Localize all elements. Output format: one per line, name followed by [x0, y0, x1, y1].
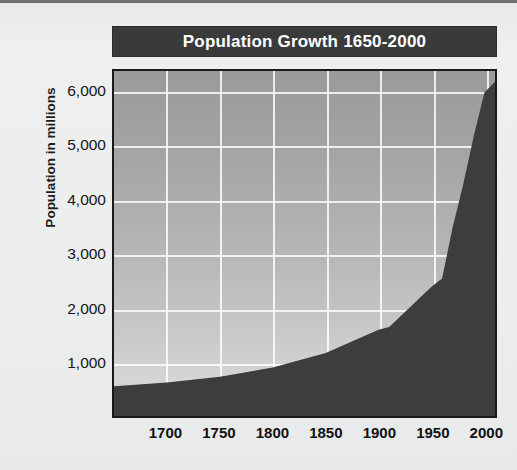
chart-title-bar: Population Growth 1650-2000: [112, 26, 497, 57]
y-tick-label: 6,000: [10, 82, 106, 100]
x-tick-label: 1850: [296, 424, 356, 441]
y-tick-label: 4,000: [10, 191, 106, 209]
x-axis-tick-labels: 1700175018001850190019502000: [112, 424, 497, 450]
population-area-path: [114, 82, 495, 416]
x-tick-label: 1700: [135, 424, 195, 441]
x-tick-label: 1950: [403, 424, 463, 441]
chart-title: Population Growth 1650-2000: [183, 32, 426, 52]
x-tick-label: 1750: [189, 424, 249, 441]
plot-area: [112, 69, 497, 418]
y-axis-tick-labels: 1,0002,0003,0004,0005,0006,000: [6, 0, 106, 470]
y-tick-label: 3,000: [10, 245, 106, 263]
y-tick-label: 1,000: [10, 354, 106, 372]
x-tick-label: 1900: [349, 424, 409, 441]
x-tick-label: 2000: [456, 424, 516, 441]
y-tick-label: 2,000: [10, 300, 106, 318]
population-area-series: [114, 71, 495, 416]
y-tick-label: 5,000: [10, 136, 106, 154]
x-tick-label: 1800: [242, 424, 302, 441]
